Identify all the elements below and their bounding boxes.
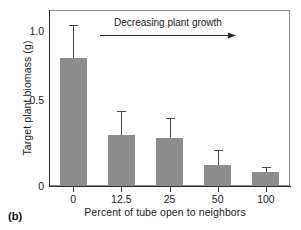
x-tick-mark-0	[73, 187, 74, 192]
annotation-arrow-right	[100, 32, 236, 39]
x-tick-label-100: 100	[243, 193, 289, 205]
bar-0	[60, 58, 87, 186]
x-tick-mark-25	[170, 187, 171, 192]
panel-label: (b)	[8, 210, 22, 222]
bar-25	[156, 138, 183, 186]
bar-12.5	[108, 135, 135, 186]
annotation-label-decreasing-growth: Decreasing plant growth	[88, 17, 248, 28]
error-bar-stem-25	[170, 119, 171, 138]
y-tick-label-1: 1.0	[18, 26, 44, 36]
y-axis-ticks: 1.0 0.5 0	[14, 0, 44, 230]
error-bar-stem-12.5	[121, 112, 122, 134]
x-tick-label-50: 50	[195, 193, 241, 205]
x-tick-label-25: 25	[147, 193, 193, 205]
error-bar-stem-50	[218, 151, 219, 165]
error-bar-cap-50	[214, 150, 223, 151]
error-bar-stem-0	[73, 26, 74, 58]
bar-50	[204, 165, 231, 186]
error-bar-cap-12.5	[117, 111, 126, 112]
figure-panel: Target plant biomass (g) 1.0 0.5 0 Decre…	[0, 0, 301, 230]
x-axis-title: Percent of tube open to neighbors	[40, 206, 290, 218]
x-tick-mark-12.5	[121, 187, 122, 192]
x-tick-mark-50	[218, 187, 219, 192]
error-bar-cap-100	[262, 167, 271, 168]
y-tick-label-0point5: 0.5	[18, 95, 44, 105]
bar-100	[252, 172, 279, 186]
x-tick-mark-100	[266, 187, 267, 192]
error-bar-cap-0	[69, 25, 78, 26]
error-bar-stem-100	[266, 168, 267, 171]
x-tick-label-0: 0	[50, 193, 96, 205]
x-tick-label-12.5: 12.5	[98, 193, 144, 205]
error-bar-cap-25	[166, 118, 175, 119]
